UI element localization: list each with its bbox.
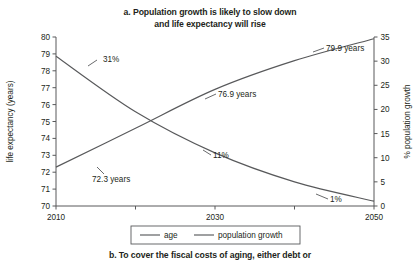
annotation-label-age: 76.9 years — [218, 90, 256, 99]
right-axis-title: % population growth — [403, 84, 412, 159]
annotation-leader — [316, 194, 328, 199]
x-axis-tick-label: 2010 — [47, 213, 66, 222]
axes-layer: 7071727374757677787980051015202530352010… — [6, 33, 412, 222]
caption-panel-b: b. To cover the fiscal costs of aging, e… — [0, 250, 420, 261]
left-axis-tick-label: 77 — [41, 84, 51, 93]
left-axis-tick-label: 72 — [41, 168, 51, 177]
left-axis-tick-label: 79 — [41, 50, 51, 59]
right-axis-tick-label: 25 — [381, 81, 391, 90]
right-axis-tick-label: 35 — [381, 33, 391, 42]
annotation-leader — [88, 60, 97, 66]
right-axis-tick-label: 0 — [381, 202, 386, 211]
right-axis-tick-label: 15 — [381, 130, 391, 139]
left-axis-tick-label: 76 — [41, 101, 51, 110]
left-axis-tick-label: 74 — [41, 134, 51, 143]
chart-canvas: 7071727374757677787980051015202530352010… — [0, 0, 420, 270]
annotation-leader — [313, 48, 324, 52]
legend-entry-population-growth[interactable]: population growth — [194, 231, 283, 240]
x-axis-tick-label: 2050 — [365, 213, 384, 222]
legend-label: age — [164, 231, 178, 240]
figure-panel-a: a. Population growth is likely to slow d… — [0, 0, 420, 270]
left-axis-tick-label: 71 — [41, 185, 51, 194]
right-axis-tick-label: 10 — [381, 154, 391, 163]
annotation-label-population-growth: 11% — [213, 151, 229, 160]
left-axis-tick-label: 73 — [41, 151, 51, 160]
left-axis-tick-label: 70 — [41, 202, 51, 211]
annotation-leader — [205, 94, 216, 99]
right-axis-tick-label: 5 — [381, 178, 386, 187]
annotation-label-age: 79.9 years — [326, 44, 364, 53]
right-axis-tick-label: 20 — [381, 105, 391, 114]
annotation-label-population-growth: 31% — [103, 55, 119, 64]
chart-legend[interactable]: agepopulation growth — [131, 226, 300, 244]
legend-label: population growth — [218, 231, 283, 240]
x-axis-tick-label: 2030 — [206, 213, 225, 222]
annotation-layer: 31%11%1%72.3 years76.9 years79.9 years — [88, 44, 364, 204]
right-axis-tick-label: 30 — [381, 57, 391, 66]
legend-entry-age[interactable]: age — [140, 231, 178, 240]
annotation-leader — [97, 167, 104, 174]
annotation-label-age: 72.3 years — [92, 175, 130, 184]
left-axis-tick-label: 75 — [41, 118, 51, 127]
left-axis-title: life expectancy (years) — [6, 80, 15, 162]
left-axis-tick-label: 78 — [41, 67, 51, 76]
left-axis-tick-label: 80 — [41, 33, 51, 42]
annotation-label-population-growth: 1% — [330, 195, 342, 204]
